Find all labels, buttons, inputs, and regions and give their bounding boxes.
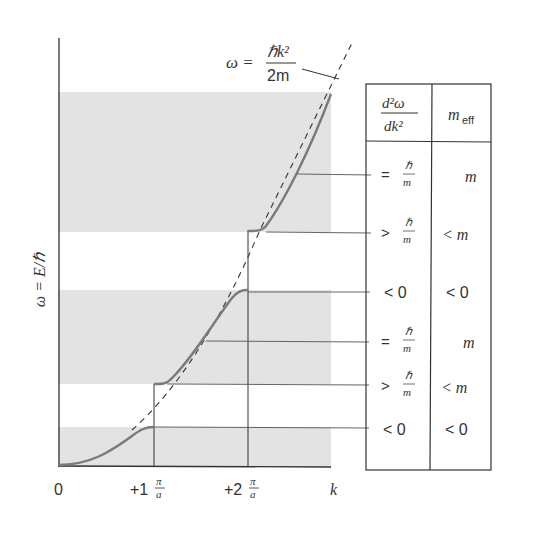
header-meff-sub: eff <box>462 114 475 126</box>
row5-den: m <box>403 386 411 398</box>
x-tick-0: 0 <box>54 481 63 498</box>
leader-line-5 <box>167 384 369 385</box>
formula-pointer <box>302 69 339 79</box>
row4-rel: = <box>381 333 390 350</box>
row1-rel: = <box>381 166 390 183</box>
allowed-band-3 <box>58 92 331 232</box>
formula-lhs: ω = <box>226 53 254 72</box>
row2-rel: > <box>381 224 390 241</box>
leader-line-2 <box>266 232 371 233</box>
allowed-band-1 <box>58 427 331 467</box>
row6-rel: < 0 <box>383 421 406 438</box>
row1-den: m <box>403 176 411 188</box>
row5-meff: < m <box>441 379 467 396</box>
band-structure-diagram: ω = ℏk² 2m ω = E/ℏ 0 +1 π a +2 π a k d²ω… <box>0 0 543 557</box>
x-tick-2-num: π <box>250 475 256 487</box>
row3-meff: < 0 <box>446 284 469 301</box>
row3-rel: < 0 <box>384 284 407 301</box>
row1-meff: m <box>465 168 477 185</box>
allowed-band-2 <box>58 290 331 384</box>
header-d2w: d²ω <box>382 95 405 111</box>
x-tick-2: +2 <box>224 481 242 498</box>
header-meff: m <box>448 106 460 123</box>
formula-num: ℏk² <box>267 43 290 60</box>
x-tick-2-den: a <box>250 488 256 500</box>
x-tick-1-den: a <box>156 488 162 500</box>
row2-den: m <box>403 233 411 245</box>
row6-meff: < 0 <box>445 421 468 438</box>
row4-num: ℏ <box>405 325 413 337</box>
formula-den: 2m <box>267 67 289 84</box>
row4-meff: m <box>463 334 475 351</box>
header-dk2: dk² <box>384 118 403 134</box>
x-tick-1-num: π <box>156 475 162 487</box>
row5-rel: > <box>381 377 390 394</box>
row1-num: ℏ <box>405 159 413 171</box>
y-axis-label: ω = E/ℏ <box>31 251 48 307</box>
row2-num: ℏ <box>405 216 413 228</box>
x-axis-label: k <box>330 481 338 498</box>
row4-den: m <box>403 342 411 354</box>
row2-meff: < m <box>442 226 468 243</box>
row5-num: ℏ <box>405 369 413 381</box>
x-tick-1: +1 <box>130 481 148 498</box>
effective-mass-table: d²ω dk² m eff = ℏ m m > ℏ m < m < 0 < 0 … <box>366 84 491 470</box>
